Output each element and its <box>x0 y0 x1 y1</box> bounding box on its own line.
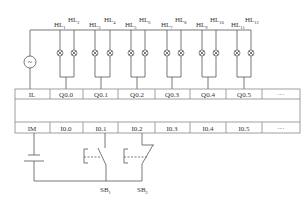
terminal-Q0.3: Q0.3 <box>165 91 179 99</box>
lamp-pair-5: HL9HL10 <box>196 16 225 89</box>
pushbutton-sb2-icon <box>124 133 154 181</box>
terminal-IL: IL <box>29 91 36 99</box>
terminal-I0.4: I0.4 <box>202 125 214 133</box>
terminal-I0.5: I0.5 <box>238 125 250 133</box>
ac-symbol: ~ <box>28 58 33 67</box>
lamp-label-hl1: HL1 <box>54 21 66 30</box>
terminal-Q0.5: Q0.5 <box>237 91 251 99</box>
input-terminal-row: IM I0.0 I0.1 I0.2 I0.3 I0.4 I0.5 ··· <box>28 125 285 133</box>
lamp-label-hl9: HL9 <box>196 21 208 30</box>
terminal-Q0.4: Q0.4 <box>201 91 215 99</box>
terminal-Q0.0: Q0.0 <box>59 91 73 99</box>
pushbutton-sb1-icon <box>84 133 106 181</box>
lamp-label-hl12: HL12 <box>245 16 259 25</box>
lamp-label-hl5: HL5 <box>125 21 137 30</box>
lamp-label-hl11: HL11 <box>231 21 245 30</box>
sb1-label: SB1 <box>100 186 111 195</box>
lamp-label-hl7: HL7 <box>161 21 173 30</box>
lamp-label-hl2: HL2 <box>68 16 80 25</box>
lamp-label-hl3: HL3 <box>89 21 101 30</box>
output-terminal-row: IL Q0.0 Q0.1 Q0.2 Q0.3 Q0.4 Q0.5 ··· <box>29 91 285 99</box>
lamp-label-hl8: HL8 <box>175 16 187 25</box>
lamp-label-hl6: HL6 <box>139 16 151 25</box>
terminal-I0.2: I0.2 <box>131 125 143 133</box>
lamp-label-hl4: HL4 <box>104 16 116 25</box>
terminal-Q0.2: Q0.2 <box>130 91 144 99</box>
plc-body <box>15 89 300 133</box>
lamp-pair-1: HL1HL2 <box>54 16 80 89</box>
terminal-more: ··· <box>278 125 285 133</box>
lamp-pair-6: HL11HL12 <box>231 16 259 89</box>
plc-wiring-diagram: ~ HL1HL2HL3HL4HL5HL6HL7HL8HL9HL10HL11HL1… <box>0 0 306 200</box>
lamp-pair-2: HL3HL4 <box>89 16 116 89</box>
sb2-label: SB2 <box>137 186 148 195</box>
lamp-label-hl10: HL10 <box>210 16 225 25</box>
terminal-I0.1: I0.1 <box>95 125 107 133</box>
terminal-Q0.1: Q0.1 <box>94 91 108 99</box>
terminal-IM: IM <box>28 125 37 133</box>
terminal-I0.0: I0.0 <box>60 125 72 133</box>
lamp-pair-3: HL5HL6 <box>125 16 151 89</box>
lamp-pair-4: HL7HL8 <box>161 16 187 89</box>
terminal-I0.3: I0.3 <box>166 125 178 133</box>
terminal-more: ··· <box>278 91 285 99</box>
